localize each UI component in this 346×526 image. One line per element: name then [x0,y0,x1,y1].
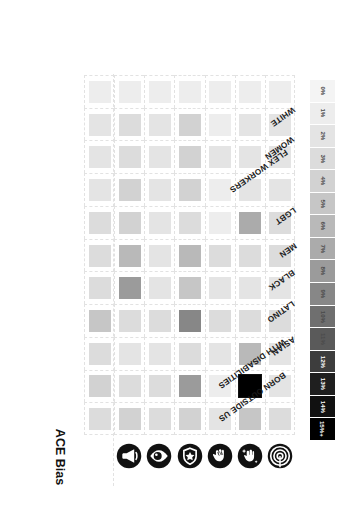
legend-entry[interactable]: 1% [310,103,335,125]
heatmap-cell[interactable] [144,271,174,304]
legend-entry-label: 9% [319,289,325,298]
legend-entry[interactable]: 4% [310,170,335,192]
legend-entry[interactable]: 5% [310,193,335,215]
heatmap-cell[interactable] [84,108,114,141]
heatmap-cell[interactable] [84,140,114,173]
legend-entry[interactable]: 11% [310,328,335,350]
heatmap-cell[interactable] [265,402,295,435]
heatmap-cell[interactable] [114,173,144,206]
heatmap-cell[interactable] [174,337,204,370]
heatmap-cell[interactable] [114,370,144,403]
heatmap-cell[interactable] [174,402,204,435]
heatmap-cell-swatch [239,408,261,430]
legend-entry[interactable]: 2% [310,125,335,147]
heatmap-cell[interactable] [174,304,204,337]
heatmap-cell[interactable] [114,206,144,239]
heatmap-cell[interactable] [205,140,235,173]
legend-entry[interactable]: 15%+ [310,418,335,440]
heatmap-cell[interactable] [114,337,144,370]
heatmap-figure: ACE Bias BORN OUTSIDE USWITH DISABILITIE… [0,0,346,526]
heatmap-cell[interactable] [265,75,295,108]
legend-entry[interactable]: 0% [310,80,335,102]
heatmap-cell[interactable] [174,108,204,141]
legend-entry-label: 13% [319,378,325,390]
heatmap-cell[interactable] [235,108,265,141]
heatmap-cell[interactable] [114,75,144,108]
column-header-col-hand-sparkle[interactable] [235,439,265,473]
heatmap-cell[interactable] [84,206,114,239]
heatmap-cell[interactable] [114,140,144,173]
heatmap-cell[interactable] [114,271,144,304]
heatmap-cell-swatch [149,343,171,365]
heatmap-cell[interactable] [144,108,174,141]
legend-entry[interactable]: 10% [310,306,335,328]
heatmap-cell[interactable] [205,206,235,239]
heatmap-cell[interactable] [265,173,295,206]
heatmap-cell[interactable] [114,304,144,337]
legend-entry[interactable]: 12% [310,351,335,373]
heatmap-cell[interactable] [84,337,114,370]
heatmap-cell[interactable] [144,206,174,239]
heatmap-cell[interactable] [144,75,174,108]
legend-entry[interactable]: 6% [310,215,335,237]
column-header-col-eye[interactable] [144,439,174,473]
heatmap-cell-swatch [89,179,111,201]
column-header-col-open-palm[interactable] [205,439,235,473]
heatmap-cell[interactable] [114,108,144,141]
heatmap-cell[interactable] [84,173,114,206]
heatmap-cell[interactable] [174,75,204,108]
heatmap-cell[interactable] [84,402,114,435]
heatmap-cell[interactable] [144,239,174,272]
legend-entry[interactable]: 8% [310,261,335,283]
heatmap-cell[interactable] [174,206,204,239]
heatmap-cell[interactable] [114,402,144,435]
legend-entry[interactable]: 3% [310,148,335,170]
heatmap-cell[interactable] [235,304,265,337]
legend-entry[interactable]: 7% [310,238,335,260]
heatmap-cell[interactable] [174,370,204,403]
heatmap-cell[interactable] [174,239,204,272]
heatmap-cell[interactable] [205,75,235,108]
heatmap-cell[interactable] [144,402,174,435]
heatmap-cell[interactable] [84,271,114,304]
heatmap-cell[interactable] [235,75,265,108]
legend-entry[interactable]: 14% [310,396,335,418]
legend-entry[interactable]: 9% [310,283,335,305]
heatmap-cell[interactable] [84,304,114,337]
heatmap-cell[interactable] [235,271,265,304]
heatmap-cell[interactable] [84,370,114,403]
column-header-col-target[interactable] [265,439,295,473]
heatmap-cell-swatch [149,146,171,168]
heatmap-cell[interactable] [235,206,265,239]
heatmap-cell-swatch [179,375,201,397]
heatmap-cell-swatch [269,179,291,201]
heatmap-cell[interactable] [205,239,235,272]
heatmap-cell[interactable] [114,239,144,272]
heatmap-cell-swatch [119,81,141,103]
heatmap-cell[interactable] [205,108,235,141]
column-header-col-megaphone[interactable] [114,439,144,473]
legend-entry-label: 15%+ [319,421,325,437]
heatmap-cell[interactable] [205,304,235,337]
heatmap-cell-swatch [209,146,231,168]
heatmap-cell[interactable] [144,370,174,403]
heatmap-cell[interactable] [174,140,204,173]
heatmap-cell[interactable] [84,239,114,272]
heatmap-cell[interactable] [174,173,204,206]
heatmap-cell[interactable] [235,239,265,272]
heatmap-cell-swatch [209,179,231,201]
legend-entry-label: 11% [319,333,325,345]
heatmap-cell[interactable] [174,271,204,304]
heatmap-cell[interactable] [144,337,174,370]
heatmap-cell[interactable] [144,304,174,337]
heatmap-cell[interactable] [205,271,235,304]
legend-entry[interactable]: 13% [310,373,335,395]
heatmap-cell[interactable] [84,75,114,108]
column-header-col-shield-badge[interactable] [174,439,204,473]
heatmap-cell[interactable] [144,140,174,173]
heatmap-cell-swatch [269,81,291,103]
heatmap-cell[interactable] [144,173,174,206]
heatmap-cell[interactable] [205,337,235,370]
heatmap-cell-swatch [239,114,261,136]
column-header-ace-bias[interactable] [84,439,114,473]
